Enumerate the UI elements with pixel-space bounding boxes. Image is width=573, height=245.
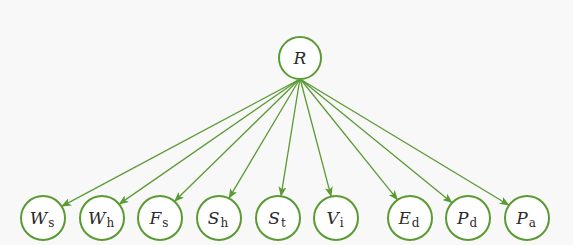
node-Sh: Sh <box>197 196 241 240</box>
node-label: R <box>293 48 307 68</box>
edge-R-Ws <box>62 80 298 206</box>
diagram-svg: RWsWhFsShStViEdPdPa <box>0 0 573 245</box>
node-Ws: Ws <box>21 196 65 240</box>
edges-group <box>62 80 509 206</box>
node-Ed: Ed <box>388 196 432 240</box>
node-Pa: Pa <box>505 196 549 240</box>
edge-R-St <box>281 80 300 196</box>
node-Pd: Pd <box>446 196 490 240</box>
edge-R-Fs <box>175 80 299 201</box>
nodes-group: RWsWhFsShStViEdPdPa <box>21 37 549 240</box>
node-Fs: Fs <box>138 196 182 240</box>
node-R: R <box>279 37 321 79</box>
edge-R-Pa <box>302 80 509 205</box>
edge-R-Wh <box>120 80 299 204</box>
node-Vi: Vi <box>314 196 358 240</box>
node-Wh: Wh <box>80 196 124 240</box>
node-St: St <box>256 196 300 240</box>
tree-diagram: RWsWhFsShStViEdPdPa <box>0 0 573 245</box>
edge-R-Pd <box>301 80 451 202</box>
